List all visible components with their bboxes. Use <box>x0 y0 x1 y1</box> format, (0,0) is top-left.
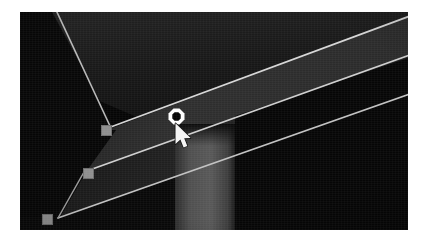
viewport-canvas[interactable] <box>20 12 408 230</box>
active-vertex-handle[interactable] <box>168 108 185 125</box>
vertex-handle-2[interactable] <box>83 168 94 179</box>
screenshot-root <box>0 0 431 230</box>
active-vertex-core <box>172 112 180 120</box>
vertex-handle-1[interactable] <box>101 125 112 136</box>
scene-graphics <box>20 12 408 230</box>
vertex-handle-3[interactable] <box>42 214 53 225</box>
surface-right-column-shadow-top <box>175 124 235 146</box>
